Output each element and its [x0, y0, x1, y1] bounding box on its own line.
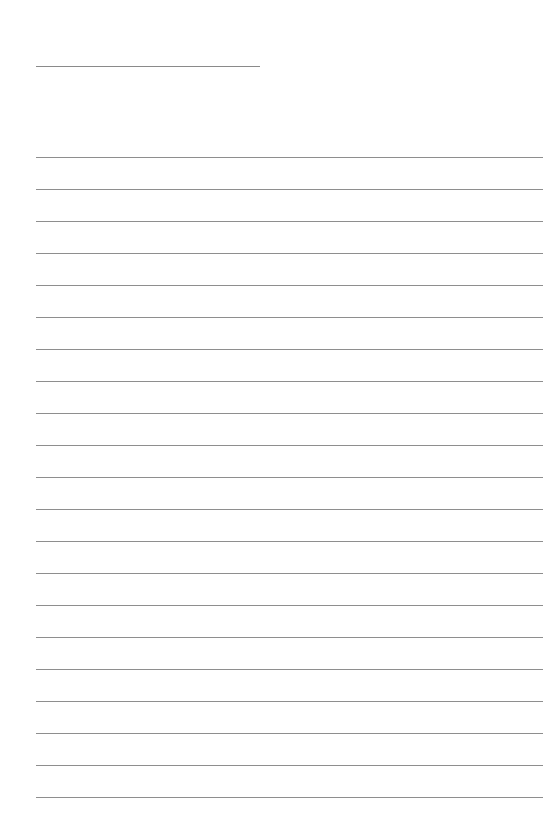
ruled-line[interactable] [36, 605, 543, 606]
ruled-line[interactable] [36, 701, 543, 702]
ruled-line[interactable] [36, 317, 543, 318]
ruled-lines [0, 0, 548, 832]
ruled-line[interactable] [36, 637, 543, 638]
ruled-line[interactable] [36, 445, 543, 446]
ruled-line[interactable] [36, 413, 543, 414]
ruled-line[interactable] [36, 349, 543, 350]
ruled-line[interactable] [36, 477, 543, 478]
ruled-line[interactable] [36, 381, 543, 382]
ruled-line[interactable] [36, 797, 543, 798]
ruled-line[interactable] [36, 221, 543, 222]
ruled-line[interactable] [36, 573, 543, 574]
ruled-line[interactable] [36, 509, 543, 510]
ruled-line[interactable] [36, 285, 543, 286]
ruled-line[interactable] [36, 765, 543, 766]
ruled-line[interactable] [36, 253, 543, 254]
ruled-line[interactable] [36, 541, 543, 542]
ruled-line[interactable] [36, 669, 543, 670]
ruled-line[interactable] [36, 733, 543, 734]
ruled-line[interactable] [36, 157, 543, 158]
ruled-line[interactable] [36, 189, 543, 190]
